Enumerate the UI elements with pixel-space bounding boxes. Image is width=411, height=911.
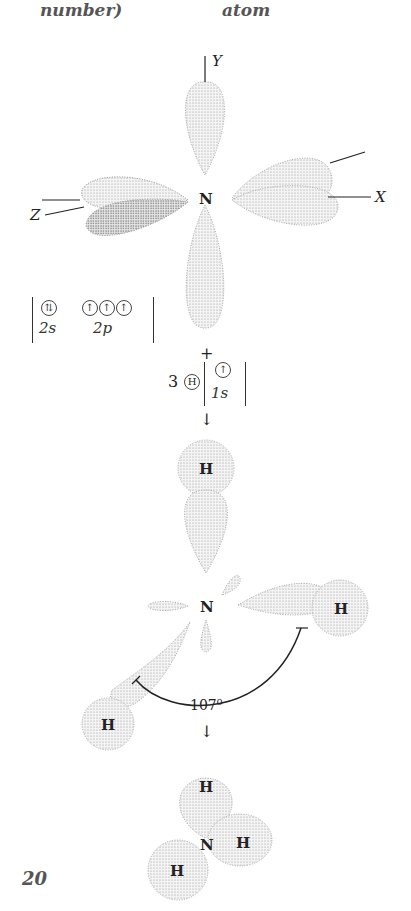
hydrogen-label-top: H <box>199 460 213 478</box>
page-number: 20 <box>22 868 47 889</box>
nitrogen-label: N <box>199 190 213 208</box>
hydrogen-label-left: H <box>101 716 115 734</box>
nitrogen-electron-configuration: ⇅ ↑↑↑ 2s 2p <box>32 297 154 343</box>
hydrogen-count: 3 <box>168 372 178 391</box>
orbital-2s-box: ⇅ <box>41 300 57 316</box>
bonding-nitrogen-label: N <box>200 598 214 616</box>
ammonia-hydrogen-right: H <box>236 834 250 852</box>
hydrogen-label-right: H <box>334 600 348 618</box>
hydrogen-electron-configuration: ↑ 1s <box>204 362 246 406</box>
hydrogen-symbol-circled: H <box>184 374 200 390</box>
bond-angle-label: 107⁰ <box>190 697 222 713</box>
ammonia-hydrogen-left: H <box>170 862 184 880</box>
label-1s: 1s <box>211 384 228 402</box>
ammonia-nitrogen: N <box>200 836 214 854</box>
orbital-diagram <box>0 0 411 911</box>
plus-sign: + <box>200 344 213 363</box>
label-2s: 2s <box>39 319 56 337</box>
arrow-down-icon: ↓ <box>200 722 213 741</box>
orbital-2p-box: ↑ <box>116 300 132 316</box>
axis-label-z: Z <box>30 206 40 224</box>
orbital-1s-box: ↑ <box>215 362 231 378</box>
label-2p: 2p <box>93 319 112 337</box>
p-orbital-y-top <box>185 82 224 175</box>
orbital-2p-box: ↑ <box>82 300 98 316</box>
orbital-2p-box: ↑ <box>99 300 115 316</box>
axis-label-y: Y <box>212 52 222 70</box>
axis-label-x: X <box>375 188 386 206</box>
ammonia-hydrogen-top: H <box>199 778 213 796</box>
arrow-down-icon: ↓ <box>200 410 213 429</box>
